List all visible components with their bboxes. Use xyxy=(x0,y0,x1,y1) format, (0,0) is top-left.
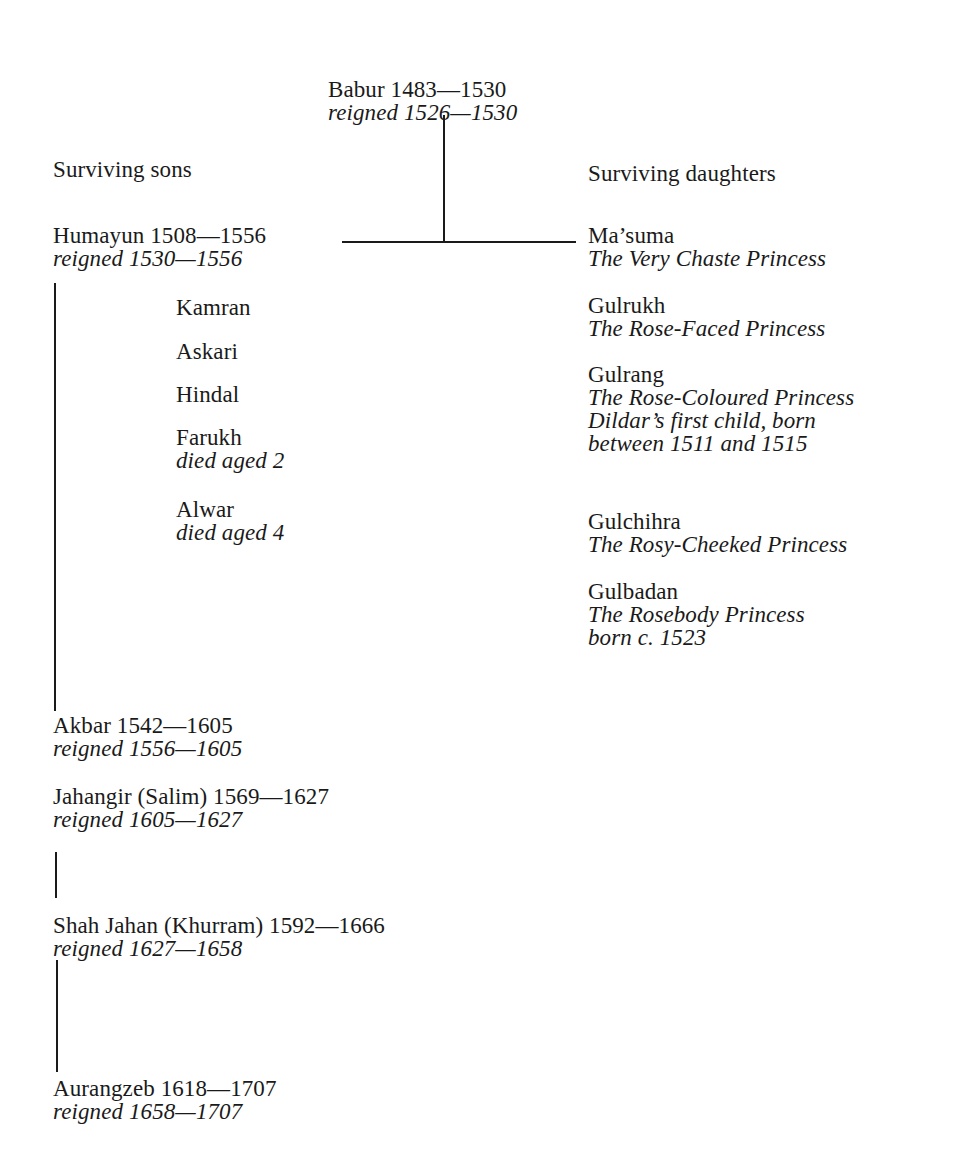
successor-akbar-reign: reigned 1556—1605 xyxy=(53,737,242,761)
son-farukh: Farukh xyxy=(176,426,242,450)
successor-jahangir-reign: reigned 1605—1627 xyxy=(53,808,242,832)
daughter-gulrang-note1: Dildar’s first child, born xyxy=(588,409,816,433)
daughter-gulrang-title: The Rose-Coloured Princess xyxy=(588,386,854,410)
daughter-gulrang-note2: between 1511 and 1515 xyxy=(588,432,808,456)
daughter-masuma-title: The Very Chaste Princess xyxy=(588,247,826,271)
jahangir-to-shahjahan-line xyxy=(55,852,57,898)
son-alwar: Alwar xyxy=(176,498,234,522)
successor-shahjahan: Shah Jahan (Khurram) 1592—1666 xyxy=(53,914,385,938)
successor-aurangzeb: Aurangzeb 1618—1707 xyxy=(53,1077,277,1101)
daughter-masuma: Ma’suma xyxy=(588,224,674,248)
root-name: Babur 1483—1530 xyxy=(328,78,506,102)
root-reign: reigned 1526—1530 xyxy=(328,101,517,125)
successor-jahangir: Jahangir (Salim) 1569—1627 xyxy=(53,785,329,809)
daughter-gulbadan-title: The Rosebody Princess xyxy=(588,603,805,627)
daughter-gulbadan-note: born c. 1523 xyxy=(588,626,706,650)
daughter-gulchihra-title: The Rosy-Cheeked Princess xyxy=(588,533,847,557)
successor-shahjahan-reign: reigned 1627—1658 xyxy=(53,937,242,961)
children-branch-line xyxy=(342,241,576,243)
son-alwar-note: died aged 4 xyxy=(176,521,284,545)
daughter-gulbadan: Gulbadan xyxy=(588,580,678,604)
daughters-heading: Surviving daughters xyxy=(588,162,776,186)
son-hindal: Hindal xyxy=(176,383,239,407)
sons-heading: Surviving sons xyxy=(53,158,192,182)
root-descent-line xyxy=(443,115,445,242)
heir-name: Humayun 1508—1556 xyxy=(53,224,266,248)
successor-akbar: Akbar 1542—1605 xyxy=(53,714,233,738)
humayun-to-akbar-line xyxy=(54,283,56,711)
son-kamran: Kamran xyxy=(176,296,251,320)
successor-aurangzeb-reign: reigned 1658—1707 xyxy=(53,1100,242,1124)
daughter-gulrang: Gulrang xyxy=(588,363,664,387)
heir-reign: reigned 1530—1556 xyxy=(53,247,242,271)
daughter-gulchihra: Gulchihra xyxy=(588,510,681,534)
shahjahan-to-aurangzeb-line xyxy=(56,960,58,1072)
daughter-gulrukh: Gulrukh xyxy=(588,294,665,318)
son-farukh-note: died aged 2 xyxy=(176,449,284,473)
son-askari: Askari xyxy=(176,340,238,364)
daughter-gulrukh-title: The Rose-Faced Princess xyxy=(588,317,825,341)
